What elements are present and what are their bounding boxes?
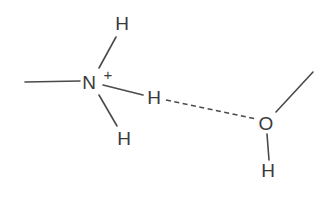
hydrogen-atom-bottom: H <box>117 128 131 149</box>
diagram-canvas: N + H H H O H <box>0 0 324 203</box>
o-methyl-bond <box>276 72 313 112</box>
oxygen-atom: O <box>259 113 274 134</box>
n-h-bottom-bond <box>99 95 117 126</box>
nitrogen-atom: N <box>82 72 96 93</box>
hydrogen-atom-middle: H <box>147 87 161 108</box>
o-h-bond <box>267 134 269 160</box>
hydrogen-atom-oxygen: H <box>261 160 275 181</box>
n-h-middle-bond <box>103 85 143 95</box>
n-h-top-bond <box>99 37 116 68</box>
positive-charge: + <box>104 66 113 83</box>
molecule-diagram: N + H H H O H <box>0 0 324 203</box>
hydrogen-bond-dashed <box>166 100 256 119</box>
hydrogen-atom-top: H <box>115 13 129 34</box>
methyl-bond <box>25 81 80 82</box>
